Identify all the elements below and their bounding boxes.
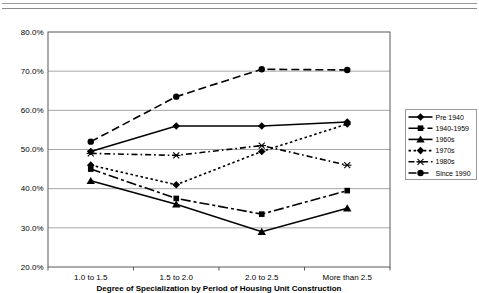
- x-tick-label: 1.5 to 2.0: [160, 273, 194, 282]
- y-tick-label: 20.0%: [21, 263, 44, 272]
- series-line-1980s: [91, 146, 348, 166]
- data-point-diamond: [172, 181, 180, 189]
- y-tick-label: 80.0%: [21, 28, 44, 37]
- legend-label: 1970s: [436, 147, 456, 154]
- y-tick-label: 30.0%: [21, 224, 44, 233]
- legend-label: 1960s: [436, 136, 456, 143]
- data-point-circle: [259, 66, 265, 72]
- legend-label: Pre 1940: [436, 114, 465, 121]
- legend-label: Since 1990: [436, 170, 471, 177]
- data-point-square: [259, 211, 265, 217]
- x-axis-title: Degree of Specialization by Period of Ho…: [97, 284, 342, 293]
- legend-label: 1980s: [436, 158, 456, 165]
- data-point-circle: [417, 170, 423, 176]
- data-point-triangle: [87, 177, 95, 184]
- data-point-star: [343, 162, 351, 168]
- data-point-square: [418, 125, 424, 131]
- y-tick-label: 70.0%: [21, 67, 44, 76]
- page: 80.0%70.0%60.0%50.0%40.0%30.0%20.0%1.0 t…: [0, 0, 479, 293]
- x-tick-label: 2.0 to 2.5: [245, 273, 279, 282]
- data-point-square: [173, 196, 179, 202]
- data-point-circle: [173, 93, 179, 99]
- y-tick-label: 40.0%: [21, 184, 44, 193]
- line-chart: 80.0%70.0%60.0%50.0%40.0%30.0%20.0%1.0 t…: [0, 0, 479, 293]
- series-line-pre-1940: [91, 122, 348, 151]
- data-point-triangle: [343, 204, 351, 211]
- data-point-star: [172, 152, 180, 158]
- data-point-circle: [344, 67, 350, 73]
- data-point-square: [344, 188, 350, 194]
- legend-label: 1940-1959: [436, 125, 470, 132]
- chart-container: 80.0%70.0%60.0%50.0%40.0%30.0%20.0%1.0 t…: [0, 0, 479, 293]
- series-line-1970s: [91, 124, 348, 185]
- data-point-diamond: [258, 122, 266, 130]
- series-line-since-1990: [91, 69, 348, 141]
- x-tick-label: 1.0 to 1.5: [74, 273, 108, 282]
- y-tick-label: 60.0%: [21, 106, 44, 115]
- data-point-diamond: [172, 122, 180, 130]
- data-point-circle: [88, 138, 94, 144]
- y-tick-label: 50.0%: [21, 145, 44, 154]
- x-tick-label: More than 2.5: [323, 273, 373, 282]
